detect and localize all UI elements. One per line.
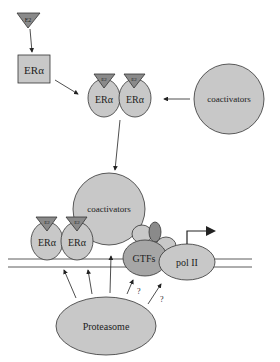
svg-text:Proteasome: Proteasome [83, 321, 130, 332]
svg-text:?: ? [137, 287, 141, 296]
svg-text:E2: E2 [74, 220, 80, 225]
svg-text:coactivators: coactivators [87, 204, 131, 214]
svg-text:ERα: ERα [68, 237, 87, 248]
transcription-start-arrow [187, 226, 216, 244]
svg-text:ERα: ERα [24, 64, 44, 76]
receptor-dimer: E2 E2 ERα ERα [88, 74, 151, 117]
svg-text:ERα: ERα [38, 237, 57, 248]
svg-text:coactivators: coactivators [207, 94, 251, 104]
proteasome: Proteasome [56, 297, 156, 355]
svg-text:GTFs: GTFs [133, 253, 156, 264]
svg-text:E2: E2 [25, 17, 32, 23]
svg-text:E2: E2 [101, 77, 107, 82]
receptor-dimer-bound: E2 E2 ERα ERα [31, 217, 93, 260]
arrow-ligand-to-receptor [30, 29, 32, 52]
receptor-monomer: ERα [18, 55, 50, 83]
arrow-monomer-to-dimer [55, 80, 78, 94]
svg-text:ERα: ERα [126, 94, 145, 105]
svg-text:?: ? [160, 295, 164, 304]
arrow-dimer-to-dna [115, 120, 120, 170]
svg-text:pol II: pol II [176, 257, 198, 268]
coactivators-free: coactivators [194, 64, 264, 134]
svg-text:ERα: ERα [95, 94, 114, 105]
estrogen-receptor-pathway-diagram: E2 ERα E2 E2 ERα ERα coactivators coacti… [0, 0, 280, 362]
svg-text:E2: E2 [44, 220, 50, 225]
svg-text:E2: E2 [131, 77, 137, 82]
pol-ii: pol II [159, 244, 215, 280]
free-ligand: E2 [17, 13, 40, 28]
